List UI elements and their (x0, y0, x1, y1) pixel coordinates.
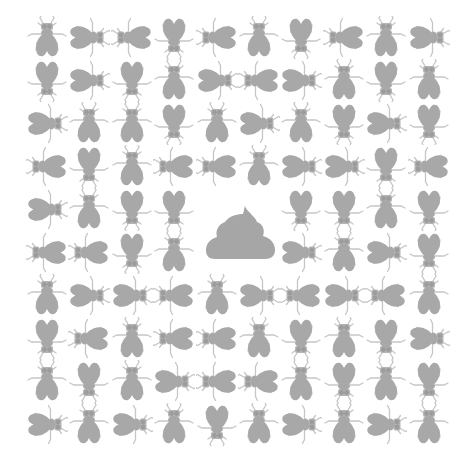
fly-icon (111, 16, 153, 59)
fly-icon (68, 403, 110, 446)
fly-icon (111, 188, 153, 231)
fly-icon (26, 231, 68, 274)
fly-icon (68, 145, 110, 188)
fly-icon (196, 403, 238, 446)
fly-icon (280, 188, 322, 231)
fly-icon (196, 59, 238, 102)
fly-icon (111, 360, 153, 403)
fly-icon (238, 102, 280, 145)
fly-icon (280, 145, 322, 188)
fly-icon (280, 59, 322, 102)
fly-icon (323, 360, 365, 403)
fly-icon (238, 360, 280, 403)
fly-icon (238, 59, 280, 102)
fly-icon (365, 360, 407, 403)
fly-icon (26, 59, 68, 102)
fly-icon (280, 274, 322, 317)
fly-icon (238, 145, 280, 188)
fly-icon (68, 274, 110, 317)
fly-icon (408, 231, 450, 274)
fly-icon (323, 16, 365, 59)
fly-icon (323, 59, 365, 102)
fly-icon (68, 360, 110, 403)
fly-icon (68, 102, 110, 145)
fly-icon (153, 145, 195, 188)
fly-icon (111, 59, 153, 102)
fly-icon (26, 403, 68, 446)
fly-icon (196, 102, 238, 145)
fly-icon (365, 16, 407, 59)
fly-icon (153, 403, 195, 446)
fly-icon (280, 16, 322, 59)
fly-icon (365, 403, 407, 446)
fly-icon (111, 145, 153, 188)
fly-icon (238, 403, 280, 446)
fly-icon (153, 231, 195, 274)
fly-icon (153, 274, 195, 317)
fly-icon (26, 360, 68, 403)
fly-icon (68, 59, 110, 102)
fly-icon (323, 317, 365, 360)
fly-icon (365, 59, 407, 102)
fly-icon (238, 274, 280, 317)
fly-icon (323, 231, 365, 274)
fly-icon (280, 317, 322, 360)
fly-icon (68, 317, 110, 360)
fly-icon (365, 231, 407, 274)
fly-icon (196, 16, 238, 59)
fly-icon (68, 16, 110, 59)
fly-icon (280, 231, 322, 274)
fly-icon (26, 16, 68, 59)
fly-icon (408, 317, 450, 360)
fly-icon (408, 403, 450, 446)
fly-icon (196, 317, 238, 360)
fly-icon (153, 188, 195, 231)
fly-icon (26, 145, 68, 188)
fly-icon (196, 360, 238, 403)
fly-icon (238, 317, 280, 360)
fly-icon (408, 360, 450, 403)
fly-icon (68, 188, 110, 231)
fly-icon (153, 16, 195, 59)
fly-icon (323, 403, 365, 446)
fly-icon (111, 317, 153, 360)
fly-icon (280, 360, 322, 403)
fly-icon (26, 317, 68, 360)
fly-icon (111, 231, 153, 274)
fly-icon (153, 360, 195, 403)
fly-icon (196, 274, 238, 317)
fly-icon (365, 102, 407, 145)
fly-icon (111, 102, 153, 145)
fly-icon (111, 274, 153, 317)
fly-icon (153, 317, 195, 360)
fly-icon (196, 145, 238, 188)
fly-icon (323, 145, 365, 188)
fly-icon (111, 403, 153, 446)
fly-icon (238, 16, 280, 59)
fly-icon (408, 102, 450, 145)
fly-icon (68, 231, 110, 274)
fly-icon (408, 274, 450, 317)
fly-icon (153, 102, 195, 145)
fly-icon (26, 188, 68, 231)
poop-icon (205, 204, 277, 260)
fly-icon (26, 102, 68, 145)
fly-icon (365, 145, 407, 188)
fly-icon (408, 145, 450, 188)
fly-icon (323, 274, 365, 317)
fly-icon (323, 102, 365, 145)
fly-icon (365, 274, 407, 317)
fly-icon (365, 317, 407, 360)
fly-icon (408, 188, 450, 231)
fly-icon (280, 102, 322, 145)
fly-icon (365, 188, 407, 231)
fly-icon (408, 59, 450, 102)
fly-icon (323, 188, 365, 231)
fly-icon (280, 403, 322, 446)
fly-icon (26, 274, 68, 317)
fly-icon (153, 59, 195, 102)
fly-icon (408, 16, 450, 59)
